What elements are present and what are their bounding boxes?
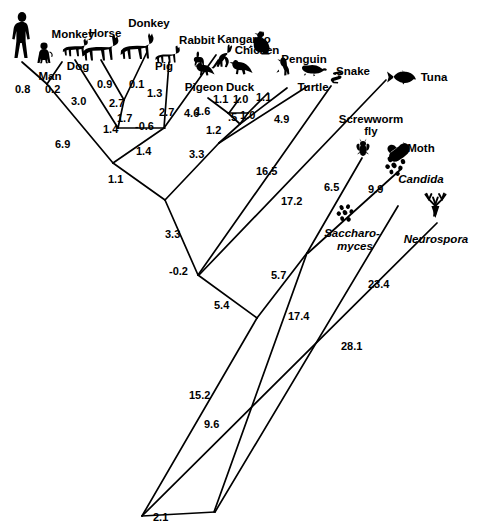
taxon-label-saccharomyces: Saccharo- <box>324 228 380 240</box>
branch-deep-node <box>198 275 257 318</box>
distance-bird-node: 1.0 <box>240 110 255 121</box>
distance-primate-stem: 6.9 <box>55 139 70 150</box>
distance-neurospora: 28.1 <box>341 341 362 352</box>
branch-donkey <box>124 52 147 100</box>
distance-pigeon: 1.1 <box>213 94 228 105</box>
branch-insect-stem <box>257 253 307 318</box>
distance-saccharomyces: 17.4 <box>288 311 309 322</box>
taxon-label-screwworm: Screwworm <box>339 114 404 126</box>
distance-deep-54: 5.4 <box>214 300 229 311</box>
distance-bird-base: 1.2 <box>206 125 221 136</box>
distance-negative-02: -0.2 <box>169 266 188 277</box>
distance-mammal-root: 1.1 <box>108 174 123 185</box>
distance-man: 0.8 <box>15 84 30 95</box>
distance-snake: 16.5 <box>256 166 277 177</box>
donkey-icon <box>121 33 154 59</box>
monkey-icon <box>37 43 52 64</box>
taxon-label-turtle: Turtle <box>297 82 328 94</box>
taxon-label-snake: Snake <box>336 66 370 78</box>
distance-ungulate: 2.7 <box>159 107 174 118</box>
taxon-label-horse: Horse <box>89 28 122 40</box>
distance-chicken: 1.1 <box>256 92 271 103</box>
distance-horse-donkey-stem: 2.7 <box>109 98 124 109</box>
distance-dog: 3.0 <box>71 96 86 107</box>
distance-monkey: 0.2 <box>45 84 60 95</box>
phylogenetic-tree-figure: Man Monkey Dog Horse Donkey Pig Rabbit K… <box>0 0 484 530</box>
distance-mammal-node: 1.4 <box>103 124 118 135</box>
distance-turtle: 4.9 <box>274 114 289 125</box>
taxon-label-dog: Dog <box>67 61 89 73</box>
taxon-label-tuna: Tuna <box>421 72 448 84</box>
distance-insect-stem: 5.7 <box>271 270 286 281</box>
distance-negative-06: -0.6 <box>135 121 154 132</box>
distance-root-21: 2.1 <box>153 512 168 523</box>
taxon-label-rabbit: Rabbit <box>179 35 215 47</box>
taxon-label-duck: Duck <box>226 82 254 94</box>
duck-icon <box>229 60 252 74</box>
distance-moth: 9.9 <box>368 184 383 195</box>
distance-pig: 1.3 <box>147 88 162 99</box>
taxon-label-saccharomyces-cont: myces <box>337 241 373 253</box>
taxon-label-penguin: Penguin <box>281 54 326 66</box>
distance-tuna: 17.2 <box>281 196 302 207</box>
branch-root-left <box>142 318 257 516</box>
rabbit-icon <box>194 52 204 66</box>
distance-horse: 0.9 <box>97 79 112 90</box>
neurospora-icon <box>425 194 445 218</box>
distance-vertebrate: 3.3 <box>165 229 180 240</box>
distance-bird-half: .5 <box>228 112 237 123</box>
distance-duck: 1.0 <box>233 94 248 105</box>
tree-branches-svg <box>0 0 484 530</box>
taxon-label-donkey: Donkey <box>128 18 170 30</box>
taxon-label-pigeon: Pigeon <box>185 82 223 94</box>
taxon-label-candida: Candida <box>398 174 443 186</box>
distance-bird-stem: 1.6 <box>195 106 210 117</box>
distance-donkey: 0.1 <box>129 79 144 90</box>
screwworm-fly-icon <box>356 139 369 156</box>
distance-candida: 23.4 <box>368 279 389 290</box>
taxon-label-neurospora: Neurospora <box>404 234 469 246</box>
pigeon-icon <box>194 63 215 76</box>
distance-root-96: 9.6 <box>204 419 219 430</box>
taxon-label-chicken: Chicken <box>235 45 280 57</box>
distance-screwworm: 6.5 <box>324 182 339 193</box>
tuna-icon <box>387 70 416 84</box>
distance-mammal-stem: 1.4 <box>136 146 151 157</box>
taxon-label-pig: Pig <box>155 61 173 73</box>
taxon-label-man: Man <box>39 71 62 83</box>
distance-amniote: 3.3 <box>189 149 204 160</box>
distance-root-152: 15.2 <box>189 390 210 401</box>
turtle-icon <box>302 65 327 76</box>
man-icon <box>12 12 30 58</box>
distance-artiodactyl: 1.7 <box>117 113 132 124</box>
taxon-label-moth: Moth <box>407 143 434 155</box>
taxon-label-screwworm-fly: fly <box>364 126 377 138</box>
